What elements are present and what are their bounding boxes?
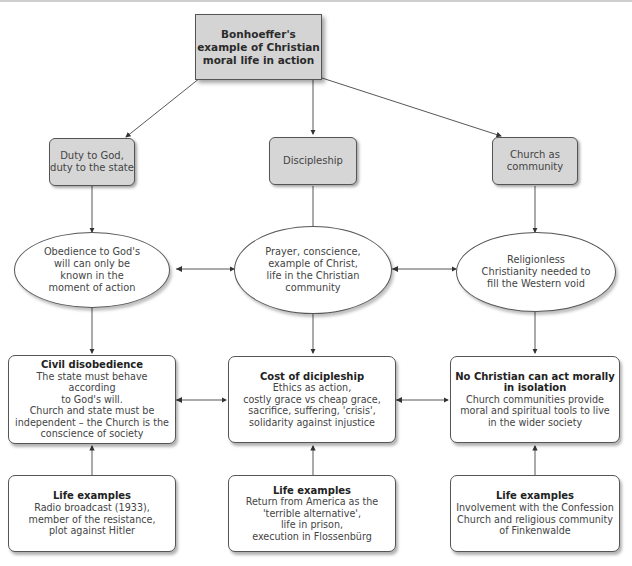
theme-church-community: Church as community	[492, 137, 578, 185]
life-examples-body: Radio broadcast (1933), member of the re…	[29, 502, 156, 537]
arrow-root-to-church	[322, 78, 501, 136]
theme-label: Church as community	[507, 149, 563, 173]
life-examples-duty: Life examples Radio broadcast (1933), me…	[8, 475, 176, 552]
life-examples-title: Life examples	[273, 485, 351, 497]
idea-text: Religionless Christianity needed to fill…	[482, 254, 591, 290]
concept-cost-of-discipleship: Cost of dicipleship Ethics as action, co…	[228, 356, 396, 443]
concept-civil-disobedience: Civil disobedience The state must behave…	[8, 355, 176, 444]
concept-title: No Christian can act morally in isolatio…	[455, 371, 615, 394]
concept-no-christian-isolation: No Christian can act morally in isolatio…	[450, 356, 620, 443]
life-examples-title: Life examples	[496, 490, 574, 502]
idea-religionless: Religionless Christianity needed to fill…	[456, 232, 616, 312]
life-examples-body: Return from America as the 'terrible alt…	[246, 496, 379, 542]
theme-duty: Duty to God, duty to the state	[49, 138, 135, 186]
root-title: Bonhoeffer's example of Christian moral …	[197, 28, 320, 67]
life-examples-discipleship: Life examples Return from America as the…	[228, 475, 396, 552]
life-examples-church: Life examples Involvement with the Confe…	[450, 475, 620, 552]
life-examples-body: Involvement with the Confession Church a…	[456, 502, 614, 537]
concept-body: Ethics as action, costly grace vs cheap …	[243, 382, 381, 428]
root-node: Bonhoeffer's example of Christian moral …	[195, 14, 322, 80]
idea-text: Obedience to God's will can only be know…	[44, 246, 140, 294]
life-examples-title: Life examples	[53, 490, 131, 502]
arrow-root-to-duty	[126, 78, 200, 137]
idea-text: Prayer, conscience, example of Christ, l…	[265, 246, 360, 294]
concept-title: Civil disobedience	[41, 359, 143, 371]
idea-obedience: Obedience to God's will can only be know…	[14, 232, 170, 308]
theme-label: Discipleship	[283, 155, 343, 167]
theme-discipleship: Discipleship	[269, 137, 357, 185]
theme-label: Duty to God, duty to the state	[50, 150, 134, 174]
concept-body: Church communities provide moral and spi…	[460, 394, 609, 429]
idea-prayer: Prayer, conscience, example of Christ, l…	[234, 226, 392, 314]
concept-body: The state must behave according to God's…	[13, 371, 171, 441]
concept-title: Cost of dicipleship	[260, 371, 364, 383]
